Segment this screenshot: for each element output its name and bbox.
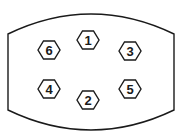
bolt-4: 4 — [38, 80, 60, 98]
bolt-5: 5 — [119, 80, 141, 98]
bolt-2: 2 — [77, 91, 99, 109]
bolt-sequence-number: 4 — [45, 82, 53, 97]
bolt-1: 1 — [77, 31, 99, 49]
bolt-6: 6 — [38, 41, 60, 59]
bolt-sequence-number: 2 — [84, 93, 91, 108]
bolt-sequence-number: 1 — [84, 33, 91, 48]
bolt-sequence-number: 3 — [126, 44, 133, 59]
bolt-3: 3 — [119, 42, 141, 60]
bolt-sequence-diagram: 123456 — [0, 0, 182, 138]
bolt-sequence-number: 5 — [126, 82, 133, 97]
bolt-sequence-number: 6 — [45, 43, 52, 58]
